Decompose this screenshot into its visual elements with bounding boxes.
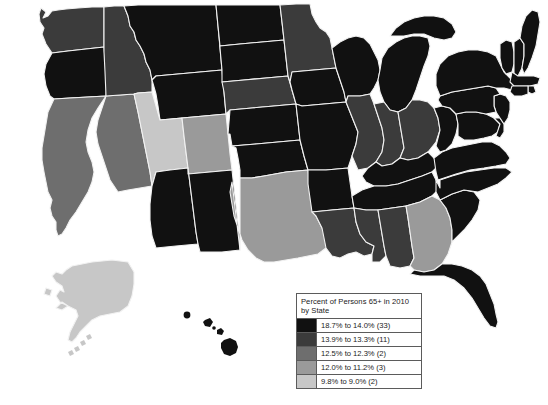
legend-row-1[interactable]: 18.7% to 14.0% (33) xyxy=(297,319,421,333)
state-MO[interactable] xyxy=(296,102,358,170)
state-HI-maui[interactable] xyxy=(217,328,224,335)
state-CT[interactable] xyxy=(510,86,528,96)
state-MA[interactable] xyxy=(510,72,540,86)
state-CA[interactable] xyxy=(42,96,106,236)
state-HI-oahu[interactable] xyxy=(203,318,213,327)
legend-label-5: 9.8% to 9.0% (2) xyxy=(317,375,421,388)
legend-swatch-1 xyxy=(297,319,317,332)
state-HI-molokai[interactable] xyxy=(212,326,216,330)
state-RI[interactable] xyxy=(528,86,536,94)
legend-swatch-3 xyxy=(297,347,317,360)
us-states-map xyxy=(0,0,548,405)
legend-label-1: 18.7% to 14.0% (33) xyxy=(317,319,421,332)
legend-label-3: 12.5% to 12.3% (2) xyxy=(317,347,421,360)
state-WY[interactable] xyxy=(152,70,226,120)
state-MD[interactable] xyxy=(456,112,500,140)
legend-swatch-5 xyxy=(297,375,317,388)
state-FL[interactable] xyxy=(410,264,498,328)
map-legend: Percent of Persons 65+ in 2010 by State … xyxy=(296,293,422,389)
state-KS[interactable] xyxy=(228,104,300,146)
legend-row-3[interactable]: 12.5% to 12.3% (2) xyxy=(297,347,421,361)
state-OH[interactable] xyxy=(398,100,440,160)
state-OR[interactable] xyxy=(44,47,107,99)
legend-swatch-2 xyxy=(297,333,317,346)
state-ME[interactable] xyxy=(520,10,540,74)
legend-label-4: 12.0% to 11.2% (3) xyxy=(317,361,421,374)
legend-label-2: 13.9% to 13.3% (11) xyxy=(317,333,421,346)
legend-swatch-4 xyxy=(297,361,317,374)
state-HI-bigisland[interactable] xyxy=(221,338,238,356)
state-SD[interactable] xyxy=(220,40,288,82)
legend-title: Percent of Persons 65+ in 2010 by State xyxy=(297,294,421,319)
state-ND[interactable] xyxy=(216,5,284,46)
state-AR[interactable] xyxy=(308,168,354,212)
legend-row-5[interactable]: 9.8% to 9.0% (2) xyxy=(297,375,421,388)
legend-row-2[interactable]: 13.9% to 13.3% (11) xyxy=(297,333,421,347)
state-VT[interactable] xyxy=(500,40,514,74)
state-WA[interactable] xyxy=(39,7,104,53)
state-HI-kauai[interactable] xyxy=(184,312,191,319)
legend-row-4[interactable]: 12.0% to 11.2% (3) xyxy=(297,361,421,375)
state-AK[interactable] xyxy=(44,260,134,342)
choropleth-map-figure: Percent of Persons 65+ in 2010 by State … xyxy=(0,0,548,405)
state-CO[interactable] xyxy=(182,114,232,174)
